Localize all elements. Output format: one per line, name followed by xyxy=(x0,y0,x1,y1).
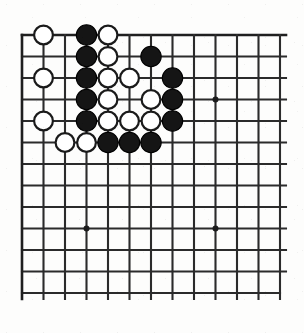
white-stone-c4-r2[interactable] xyxy=(99,69,118,88)
white-stone-c4-r0[interactable] xyxy=(99,26,118,45)
black-stone-c3-r2[interactable] xyxy=(76,68,96,88)
black-stone-c3-r3[interactable] xyxy=(76,89,96,109)
star-point-1 xyxy=(213,97,219,103)
black-stone-c4-r5[interactable] xyxy=(98,132,118,152)
white-stone-c5-r2[interactable] xyxy=(120,69,139,88)
board-grid xyxy=(22,35,286,299)
white-stone-c1-r2[interactable] xyxy=(34,69,53,88)
black-stone-c7-r2[interactable] xyxy=(162,68,182,88)
white-stone-c1-r4[interactable] xyxy=(34,112,53,131)
black-stone-c7-r3[interactable] xyxy=(162,89,182,109)
white-stone-c4-r3[interactable] xyxy=(99,90,118,109)
white-stone-c3-r5[interactable] xyxy=(77,133,96,152)
star-point-2 xyxy=(213,226,219,232)
white-stone-c4-r4[interactable] xyxy=(99,112,118,131)
black-stone-c6-r5[interactable] xyxy=(141,132,161,152)
black-stone-c6-r1[interactable] xyxy=(141,46,161,66)
black-stone-c3-r1[interactable] xyxy=(76,46,96,66)
star-point-0 xyxy=(84,226,90,232)
white-stone-c6-r3[interactable] xyxy=(142,90,161,109)
white-stone-c6-r4[interactable] xyxy=(142,112,161,131)
white-stone-c5-r4[interactable] xyxy=(120,112,139,131)
black-stone-c5-r5[interactable] xyxy=(119,132,139,152)
white-stone-c4-r1[interactable] xyxy=(99,47,118,66)
black-stone-c7-r4[interactable] xyxy=(162,111,182,131)
black-stone-c3-r0[interactable] xyxy=(76,25,96,45)
go-board-figure xyxy=(0,0,304,333)
black-stone-c3-r4[interactable] xyxy=(76,111,96,131)
white-stone-c1-r0[interactable] xyxy=(34,26,53,45)
white-stone-c2-r5[interactable] xyxy=(56,133,75,152)
go-board[interactable] xyxy=(0,0,304,333)
